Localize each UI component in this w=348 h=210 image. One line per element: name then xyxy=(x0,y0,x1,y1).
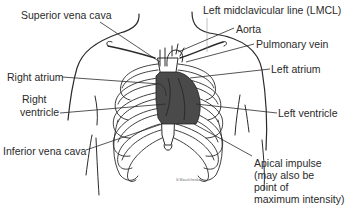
label-inferior-vena-cava: Inferior vena cava xyxy=(3,145,86,157)
label-aorta: Aorta xyxy=(236,23,261,35)
label-left-ventricle: Left ventricle xyxy=(278,107,338,119)
artist-signature: G.Wassilchenko xyxy=(176,178,200,182)
heart-thorax-diagram: Superior vena cava Left midclavicular li… xyxy=(0,0,348,210)
heart xyxy=(156,72,200,124)
label-apical-impulse-line1: Apical impulse xyxy=(254,157,322,169)
label-left-atrium: Left atrium xyxy=(271,63,321,75)
label-right-ventricle-line1: Right xyxy=(22,93,47,105)
label-left-midclavicular-line: Left midclavicular line (LMCL) xyxy=(203,4,341,16)
label-superior-vena-cava: Superior vena cava xyxy=(21,9,111,21)
label-apical-impulse-line3: point of xyxy=(254,181,288,193)
label-apical-impulse-line4: maximum intensity) xyxy=(254,193,344,205)
label-right-ventricle-line2: ventricle xyxy=(20,106,59,118)
label-apical-impulse-line2: (may also be xyxy=(254,169,314,181)
label-right-atrium: Right atrium xyxy=(7,71,64,83)
label-pulmonary-vein: Pulmonary vein xyxy=(256,38,328,50)
